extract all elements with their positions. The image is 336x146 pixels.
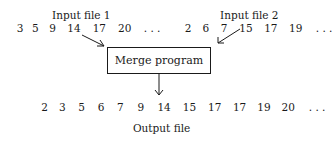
value: 3 — [54, 101, 70, 113]
value: 20 — [278, 101, 299, 113]
output-file-values: 2 3 5 6 7 9 14 15 17 17 19 20 . . . — [38, 101, 332, 113]
value: 19 — [253, 101, 274, 113]
value: 17 — [204, 101, 226, 113]
value: 5 — [74, 101, 90, 113]
arrow-input2-to-merge — [218, 29, 240, 43]
value: 15 — [178, 101, 200, 113]
value: 7 — [112, 101, 128, 113]
value: 14 — [153, 101, 175, 113]
value: 17 — [229, 101, 250, 113]
value: 2 — [38, 101, 51, 113]
value: 9 — [132, 101, 150, 113]
value: 6 — [93, 101, 109, 113]
output-file-label: Output file — [133, 122, 190, 134]
ellipsis: . . . — [302, 101, 332, 113]
